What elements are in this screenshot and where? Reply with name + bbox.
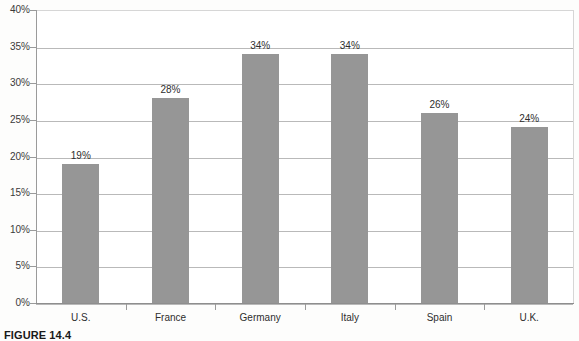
y-axis-label: 0%	[0, 298, 30, 308]
y-axis-label: 35%	[0, 42, 30, 52]
bar-value-label: 34%	[230, 40, 290, 51]
x-axis-label: Italy	[310, 312, 390, 323]
y-axis-label: 5%	[0, 261, 30, 271]
x-axis-label: U.S.	[41, 312, 121, 323]
x-axis-tick	[126, 304, 127, 310]
y-axis-tick	[30, 157, 36, 158]
bar-u-k[interactable]	[511, 127, 548, 303]
bar-italy[interactable]	[331, 54, 368, 303]
bar-value-label: 19%	[51, 150, 111, 161]
y-axis-tick	[30, 83, 36, 84]
x-axis-label: Spain	[400, 312, 480, 323]
x-axis-label: Germany	[220, 312, 300, 323]
bar-france[interactable]	[152, 98, 189, 303]
y-axis-label: 30%	[0, 78, 30, 88]
y-axis-label: 25%	[0, 115, 30, 125]
y-axis-tick	[30, 266, 36, 267]
figure-page: 0%5%10%15%20%25%30%35%40%19%U.S.28%Franc…	[0, 0, 579, 341]
y-axis-tick	[30, 10, 36, 11]
bar-value-label: 24%	[499, 113, 559, 124]
bar-germany[interactable]	[242, 54, 279, 303]
bar-value-label: 28%	[141, 84, 201, 95]
bar-value-label: 34%	[320, 40, 380, 51]
y-axis-label: 15%	[0, 188, 30, 198]
x-axis-label: France	[131, 312, 211, 323]
bar-value-label: 26%	[410, 99, 470, 110]
bar-u-s[interactable]	[62, 164, 99, 303]
x-axis-label: U.K.	[489, 312, 569, 323]
x-axis-tick	[215, 304, 216, 310]
y-axis-tick	[30, 303, 36, 304]
y-axis-tick	[30, 47, 36, 48]
y-axis-label: 10%	[0, 225, 30, 235]
y-axis-tick	[30, 230, 36, 231]
x-axis-tick	[395, 304, 396, 310]
figure-caption: FIGURE 14.4	[4, 329, 71, 341]
y-axis-tick	[30, 120, 36, 121]
bar-spain[interactable]	[421, 113, 458, 303]
y-axis-label: 40%	[0, 5, 30, 15]
x-axis-tick	[484, 304, 485, 310]
bar-chart: 0%5%10%15%20%25%30%35%40%19%U.S.28%Franc…	[0, 0, 579, 341]
y-axis-tick	[30, 193, 36, 194]
x-axis-tick	[305, 304, 306, 310]
y-axis-label: 20%	[0, 152, 30, 162]
bars-layer	[36, 10, 574, 303]
